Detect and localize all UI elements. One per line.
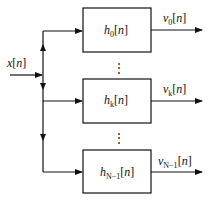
output-label-vn1: vN−1[n] (158, 154, 192, 170)
filter-label-h0: h0[n] (104, 23, 128, 39)
bus-arrow-up-icon (40, 44, 46, 51)
input-label: x[n] (6, 56, 26, 70)
filter-bank-diagram: x[n] h0[n] v0[n] ⋮ hk[n] vk[n] ⋮ hN−1[n]… (0, 0, 209, 211)
output-label-vk: vk[n] (163, 82, 186, 98)
output-label-v0: v0[n] (163, 11, 186, 27)
filter-label-hk: hk[n] (104, 93, 128, 109)
ellipsis-1: ⋮ (113, 61, 125, 75)
bus-arrow-down-2-icon (40, 134, 46, 141)
ellipsis-2: ⋮ (113, 131, 125, 145)
bus-arrow-down-icon (40, 83, 46, 90)
